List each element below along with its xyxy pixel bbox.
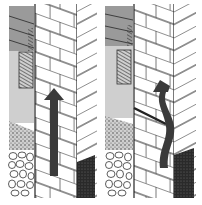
brick-wall-front <box>134 4 174 198</box>
soil-block <box>77 155 95 198</box>
left-panel <box>9 4 98 198</box>
wood-block <box>19 52 33 88</box>
wood-block <box>117 50 131 84</box>
soil-block <box>174 148 194 198</box>
stone-rubble <box>9 150 35 198</box>
lath-strip <box>28 28 33 53</box>
stone-rubble <box>105 150 133 198</box>
gravel-fill <box>9 121 34 150</box>
wall-section-illustration <box>0 0 202 205</box>
gravel-fill <box>105 116 133 150</box>
right-panel <box>105 4 196 198</box>
